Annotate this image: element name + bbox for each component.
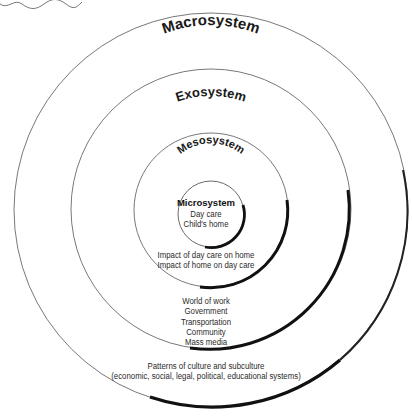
squiggle-decoration [0,0,82,9]
microsystem-item: Child's home [16,219,395,229]
exosystem-item: Transportation [16,317,395,327]
exosystem-item: Government [16,306,395,316]
exosystem-title: Exosystem [174,84,249,105]
macrosystem-item: (economic, social, legal, political, edu… [16,371,395,381]
microsystem-content: Microsystem Day care Child's home [0,197,412,229]
mesosystem-item: Impact of day care on home [16,250,395,260]
exosystem-item: Mass media [16,337,395,347]
microsystem-title: Microsystem [0,197,412,209]
mesosystem-content: Impact of day care on home Impact of hom… [0,250,412,271]
exosystem-item: Community [16,327,395,337]
exosystem-content: World of work Government Transportation … [0,296,412,348]
macrosystem-content: Patterns of culture and subculture (econ… [0,361,412,382]
mesosystem-item: Impact of home on day care [16,260,395,270]
mesosystem-title: Mesosystem [175,133,248,156]
exosystem-item: World of work [16,296,395,306]
macrosystem-item: Patterns of culture and subculture [16,361,395,371]
macrosystem-title: Macrosystem [160,11,263,36]
microsystem-item: Day care [16,209,395,219]
